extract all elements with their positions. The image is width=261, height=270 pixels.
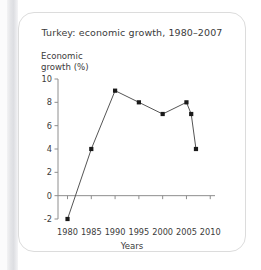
y-axis-tick-label: 8	[47, 97, 52, 107]
x-axis-tick-label: 1990	[105, 227, 126, 237]
x-axis-label: Years	[19, 241, 245, 251]
x-axis-tick-label: 2010	[200, 227, 221, 237]
data-point-marker	[161, 112, 165, 116]
x-axis-tick-label: 1980	[57, 227, 78, 237]
data-point-marker	[189, 112, 193, 116]
data-point-marker	[89, 147, 93, 151]
y-axis-tick-label: 6	[47, 121, 52, 131]
x-axis-tick-label: 1995	[128, 227, 149, 237]
figure-card: Turkey: economic growth, 1980–2007 Econo…	[18, 12, 246, 252]
page-gutter-band	[7, 0, 18, 270]
data-point-marker	[194, 147, 198, 151]
line-chart-plot: -202468101980198519901995200020052010	[19, 13, 247, 253]
y-axis-tick-label: 2	[47, 167, 52, 177]
data-point-marker	[184, 100, 188, 104]
y-axis-tick-label: 4	[47, 144, 52, 154]
x-axis-tick-label: 2005	[176, 227, 197, 237]
x-axis-tick-label: 1985	[81, 227, 102, 237]
page-gutter-edge	[0, 0, 7, 270]
data-point-marker	[113, 89, 117, 93]
data-point-marker	[137, 100, 141, 104]
data-line	[68, 91, 196, 219]
y-axis-tick-label: 10	[42, 74, 52, 84]
data-point-marker	[65, 217, 69, 221]
x-axis-tick-label: 2000	[152, 227, 173, 237]
y-axis-tick-label: 0	[47, 191, 52, 201]
y-axis-tick-label: -2	[44, 214, 52, 224]
screenshot-root: Turkey: economic growth, 1980–2007 Econo…	[0, 0, 261, 270]
